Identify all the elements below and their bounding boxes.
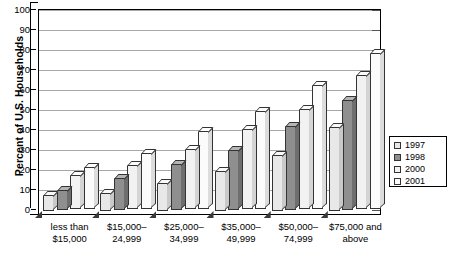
gridline — [39, 10, 380, 11]
bar-side-face — [366, 72, 371, 209]
y-tick-mark — [31, 69, 36, 70]
x-tick-label: $35,000–49,999 — [209, 221, 273, 244]
legend-swatch-icon — [394, 142, 401, 149]
y-tick-mark — [31, 149, 36, 150]
y-tick-mark — [31, 209, 36, 210]
bar-side-face — [181, 161, 186, 210]
bar-side-face — [238, 147, 243, 210]
x-tick-label: $15,000–24,999 — [95, 221, 159, 244]
bar-side-face — [265, 107, 270, 208]
bar-side-face — [137, 162, 142, 209]
bar-side-face — [151, 149, 156, 208]
bar-2001-5 — [370, 53, 381, 209]
bar-side-face — [339, 123, 344, 210]
legend-item-2000[interactable]: 2000 — [394, 164, 446, 175]
gridline — [39, 110, 380, 111]
bar-side-face — [124, 175, 129, 210]
bar-side-face — [167, 179, 172, 210]
bar-1998-2 — [171, 164, 182, 210]
bar-side-face — [352, 97, 357, 210]
bar-2000-3 — [242, 129, 253, 209]
y-tick-mark — [31, 49, 36, 50]
y-tick-mark — [31, 89, 36, 90]
bar-1997-2 — [157, 183, 168, 211]
y-tick-mark — [31, 169, 36, 170]
legend-label: 2001 — [405, 177, 425, 186]
bar-side-face — [208, 127, 213, 208]
x-tick-label-line: 24,999 — [95, 233, 159, 245]
x-tick-label: less than$15,000 — [38, 221, 102, 244]
x-tick-label-line: 74,999 — [266, 233, 330, 245]
y-tick-mark — [31, 189, 36, 190]
bar-side-face — [225, 167, 230, 210]
x-tick-label-line: $15,000– — [95, 221, 159, 233]
right-tick — [372, 10, 380, 11]
group-base-wedge — [321, 211, 328, 218]
y-tick-label: 60 — [4, 85, 30, 94]
legend-swatch-icon — [394, 166, 401, 173]
legend-item-1998[interactable]: 1998 — [394, 152, 446, 163]
bar-1997-5 — [329, 127, 340, 211]
y-tick-label: 40 — [4, 125, 30, 134]
bar-side-face — [322, 81, 327, 208]
legend-swatch-icon — [394, 154, 401, 161]
legend-item-1997[interactable]: 1997 — [394, 140, 446, 151]
bar-1997-0 — [43, 195, 54, 211]
chart-legend: 1997199820002001 — [389, 136, 447, 187]
bar-side-face — [309, 106, 314, 209]
bar-side-face — [195, 146, 200, 209]
x-tick-label: $50,000–74,999 — [266, 221, 330, 244]
legend-label: 1997 — [405, 141, 425, 150]
bar-side-face — [380, 49, 385, 208]
bar-2001-1 — [141, 153, 152, 209]
bar-1998-0 — [57, 190, 68, 210]
x-tick-label-line: less than — [38, 221, 102, 233]
y-tick-mark — [31, 109, 36, 110]
y-tick-label: 50 — [4, 105, 30, 114]
y-tick-mark — [31, 129, 36, 130]
x-tick-label-line: 34,999 — [152, 233, 216, 245]
bar-side-face — [80, 172, 85, 209]
y-tick-label: 100 — [4, 5, 30, 14]
group-base-wedge — [264, 211, 271, 218]
bar-1997-4 — [272, 155, 283, 211]
bar-2000-1 — [127, 165, 138, 209]
chart-left-wall — [30, 2, 38, 208]
y-tick-label: 30 — [4, 145, 30, 154]
x-tick-label-line: $75,000 and — [323, 221, 387, 233]
group-base-wedge — [149, 211, 156, 218]
legend-swatch-icon — [394, 178, 401, 185]
group-base-wedge — [207, 211, 214, 218]
y-tick-mark — [31, 29, 36, 30]
bar-2000-4 — [299, 109, 310, 209]
y-tick-label: 0 — [4, 205, 30, 214]
x-tick-label-line: 49,999 — [209, 233, 273, 245]
x-tick-label-line: $15,000 — [38, 233, 102, 245]
bar-side-face — [295, 123, 300, 210]
bar-2001-0 — [84, 167, 95, 209]
y-tick-label: 90 — [4, 25, 30, 34]
bar-1997-3 — [215, 171, 226, 211]
bar-side-face — [282, 151, 287, 210]
x-tick-label: $25,000–34,999 — [152, 221, 216, 244]
x-tick-label-line: above — [323, 233, 387, 245]
bar-1998-5 — [342, 100, 353, 210]
bar-2000-2 — [185, 149, 196, 209]
bar-side-face — [94, 163, 99, 208]
plot-area — [38, 9, 381, 215]
legend-item-2001[interactable]: 2001 — [394, 176, 446, 187]
x-tick-label-line: $50,000– — [266, 221, 330, 233]
gridline — [39, 30, 380, 31]
right-tick — [372, 30, 380, 31]
gridline — [39, 90, 380, 91]
x-tick-label: $75,000 andabove — [323, 221, 387, 244]
gridline — [39, 70, 380, 71]
bar-side-face — [252, 126, 257, 209]
x-tick-label-line: $25,000– — [152, 221, 216, 233]
bar-2001-4 — [312, 85, 323, 209]
y-tick-label: 80 — [4, 45, 30, 54]
y-tick-label: 20 — [4, 165, 30, 174]
x-tick-label-line: $35,000– — [209, 221, 273, 233]
legend-label: 2000 — [405, 165, 425, 174]
y-tick-label: 10 — [4, 185, 30, 194]
